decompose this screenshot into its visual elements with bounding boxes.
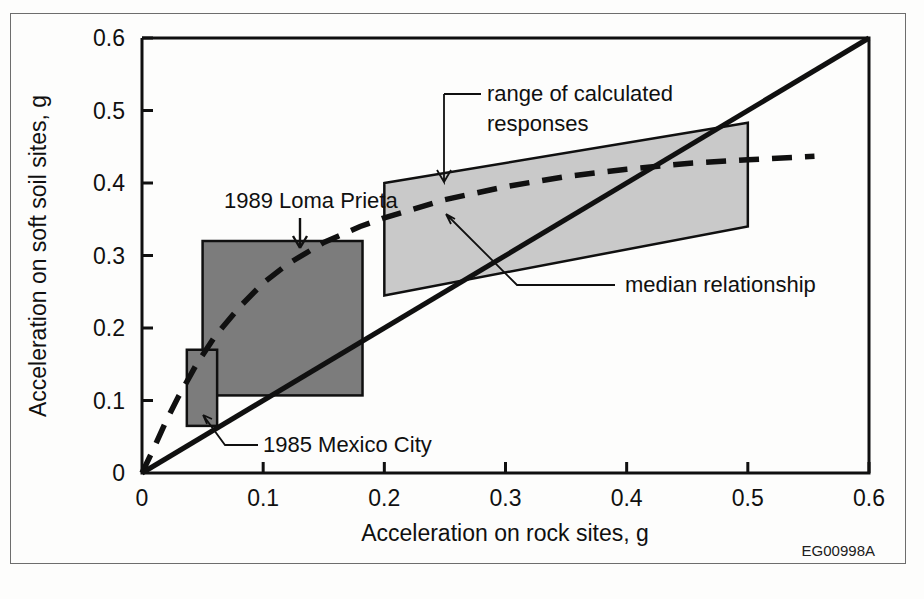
annotation-1989-loma-prieta: 1989 Loma Prieta — [224, 188, 398, 248]
y-axis-tick-labels: 00.10.20.30.40.50.6 — [93, 25, 125, 486]
x-tick-label: 0.1 — [247, 485, 279, 511]
x-tick-label: 0.4 — [611, 485, 643, 511]
acceleration-comparison-chart: 00.10.20.30.40.50.6 00.10.20.30.40.50.6 … — [0, 0, 924, 599]
annotation-mexico-city-label: 1985 Mexico City — [263, 432, 432, 457]
y-tick-label: 0 — [112, 460, 125, 486]
y-tick-label: 0.5 — [93, 98, 125, 124]
figure-root: 00.10.20.30.40.50.6 00.10.20.30.40.50.6 … — [0, 0, 924, 599]
y-tick-label: 0.3 — [93, 243, 125, 269]
x-axis-title: Acceleration on rock sites, g — [361, 520, 649, 546]
x-axis-tick-labels: 00.10.20.30.40.50.6 — [136, 485, 885, 511]
y-axis-ticks — [142, 38, 153, 401]
x-tick-label: 0.3 — [490, 485, 522, 511]
x-tick-label: 0.6 — [853, 485, 885, 511]
x-tick-label: 0.5 — [732, 485, 764, 511]
y-tick-label: 0.6 — [93, 25, 125, 51]
y-tick-label: 0.4 — [93, 170, 125, 196]
region-1985-mexico-city — [187, 350, 217, 426]
y-tick-label: 0.2 — [93, 315, 125, 341]
figure-id-tag: EG00998A — [802, 542, 875, 559]
annotation-1985-mexico-city: 1985 Mexico City — [203, 415, 432, 457]
annotation-range-label-line2: responses — [487, 111, 589, 136]
y-tick-label: 0.1 — [93, 388, 125, 414]
annotation-median-label: median relationship — [625, 272, 816, 297]
x-tick-label: 0 — [136, 485, 149, 511]
x-tick-label: 0.2 — [368, 485, 400, 511]
x-axis-ticks — [263, 462, 869, 473]
region-range-of-calculated-responses — [384, 123, 747, 296]
annotation-loma-prieta-label: 1989 Loma Prieta — [224, 188, 398, 213]
y-axis-title: Acceleration on soft soil sites, g — [25, 95, 51, 417]
annotation-range-label-line1: range of calculated — [487, 81, 673, 106]
